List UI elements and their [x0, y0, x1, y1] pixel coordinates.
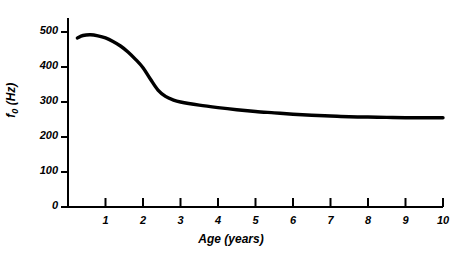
y-axis-tick-label: 100 [10, 164, 58, 176]
y-axis-tick-label: 500 [10, 24, 58, 36]
y-axis-tick-label: 0 [10, 199, 58, 211]
y-axis-tick-label: 400 [10, 59, 58, 71]
y-axis-title: f0 (Hz) [4, 70, 20, 130]
data-series-line [77, 35, 443, 118]
x-axis-tick-label: 4 [198, 214, 238, 226]
x-axis-tick-label: 2 [123, 214, 163, 226]
x-axis-tick-label: 3 [161, 214, 201, 226]
x-axis-ticks [106, 198, 444, 207]
y-axis-ticks [61, 32, 68, 207]
x-axis-tick-label: 6 [273, 214, 313, 226]
y-axis-title-subscript: 0 [10, 109, 20, 114]
chart-figure: 0100200300400500 12345678910 f0 (Hz) Age… [0, 0, 462, 258]
x-axis-tick-label: 9 [386, 214, 426, 226]
x-axis-tick-label: 10 [423, 214, 462, 226]
x-axis-tick-label: 8 [348, 214, 388, 226]
x-axis-title: Age (years) [0, 232, 462, 246]
x-axis-tick-label: 7 [311, 214, 351, 226]
x-axis-tick-label: 1 [86, 214, 126, 226]
y-axis-title-base: f [4, 114, 18, 118]
y-axis-title-unit: (Hz) [4, 83, 18, 109]
x-axis-tick-label: 5 [236, 214, 276, 226]
y-axis-tick-label: 200 [10, 129, 58, 141]
